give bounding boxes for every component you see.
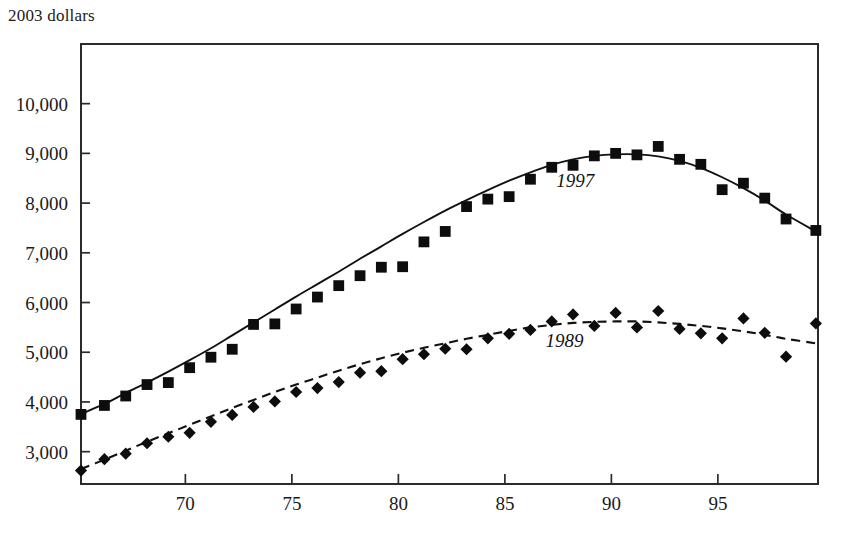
data-point-marker: [206, 352, 217, 363]
data-point-marker: [759, 193, 770, 204]
y-tick-label: 4,000: [25, 392, 68, 413]
series-label-1989: 1989: [546, 330, 585, 351]
data-point-marker: [418, 348, 430, 360]
data-point-marker: [269, 395, 281, 407]
data-point-marker: [652, 305, 664, 317]
y-tick-label: 7,000: [25, 243, 68, 264]
series-label-1997: 1997: [556, 170, 596, 191]
data-point-marker: [759, 327, 771, 339]
data-point-marker: [419, 236, 430, 247]
data-point-marker: [311, 382, 323, 394]
data-point-marker: [737, 312, 749, 324]
chart-page: 2003 dollars 3,0004,0005,0006,0007,0008,…: [0, 0, 842, 533]
data-point-marker: [482, 194, 493, 205]
plot-frame: [81, 44, 818, 484]
data-point-marker: [184, 362, 195, 373]
data-point-marker: [482, 332, 494, 344]
y-tick-label: 9,000: [25, 143, 68, 164]
series-1989: [75, 305, 822, 477]
data-point-marker: [461, 201, 472, 212]
data-point-marker: [76, 409, 87, 420]
y-tick-label: 8,000: [25, 193, 68, 214]
data-point-marker: [567, 308, 579, 320]
data-point-marker: [810, 225, 821, 236]
chart-plot-area: 3,0004,0005,0006,0007,0008,0009,00010,00…: [0, 0, 842, 533]
data-point-marker: [738, 178, 749, 189]
data-series-group: [75, 141, 822, 477]
data-point-marker: [695, 327, 707, 339]
y-tick-label: 5,000: [25, 342, 68, 363]
data-point-marker: [589, 150, 600, 161]
x-tick-label: 90: [602, 493, 621, 514]
data-point-marker: [524, 324, 536, 336]
data-point-marker: [290, 386, 302, 398]
x-axis-ticks: 707580859095: [176, 474, 728, 514]
data-point-marker: [631, 321, 643, 333]
y-axis-ticks: 3,0004,0005,0006,0007,0008,0009,00010,00…: [16, 94, 90, 463]
x-tick-label: 75: [282, 493, 301, 514]
data-point-marker: [504, 191, 515, 202]
series-1997: [76, 141, 822, 420]
data-point-marker: [780, 351, 792, 363]
data-point-marker: [781, 214, 792, 225]
data-point-marker: [375, 365, 387, 377]
trend-line-1997: [81, 154, 816, 414]
data-point-marker: [716, 332, 728, 344]
data-point-marker: [269, 319, 280, 330]
data-point-marker: [184, 427, 196, 439]
data-point-marker: [98, 453, 110, 465]
data-point-marker: [248, 319, 259, 330]
data-point-marker: [99, 400, 110, 411]
data-point-marker: [163, 377, 174, 388]
data-point-marker: [312, 292, 323, 303]
data-point-marker: [440, 226, 451, 237]
plot-frame-path: [81, 44, 818, 484]
data-point-marker: [397, 353, 409, 365]
x-tick-label: 95: [708, 493, 727, 514]
trend-line-1989: [81, 321, 816, 469]
data-point-marker: [525, 174, 536, 185]
y-tick-label: 6,000: [25, 293, 68, 314]
data-point-marker: [632, 149, 643, 160]
data-point-marker: [227, 344, 238, 355]
data-point-marker: [610, 148, 621, 159]
data-point-marker: [653, 141, 664, 152]
data-point-marker: [810, 317, 822, 329]
data-point-marker: [674, 154, 685, 165]
x-tick-label: 80: [389, 493, 408, 514]
data-point-marker: [717, 184, 728, 195]
data-point-marker: [460, 343, 472, 355]
y-tick-label: 3,000: [25, 442, 68, 463]
data-point-marker: [333, 376, 345, 388]
data-point-marker: [354, 367, 366, 379]
data-point-marker: [142, 379, 153, 390]
data-point-marker: [291, 304, 302, 315]
x-tick-label: 85: [495, 493, 514, 514]
data-point-marker: [376, 262, 387, 273]
data-point-marker: [695, 159, 706, 170]
data-point-marker: [546, 315, 558, 327]
data-point-marker: [120, 391, 131, 402]
data-point-marker: [568, 160, 579, 171]
data-point-marker: [333, 280, 344, 291]
data-point-marker: [397, 261, 408, 272]
x-tick-label: 70: [176, 493, 195, 514]
y-tick-label: 10,000: [16, 94, 68, 115]
data-point-marker: [355, 270, 366, 281]
data-point-marker: [610, 307, 622, 319]
